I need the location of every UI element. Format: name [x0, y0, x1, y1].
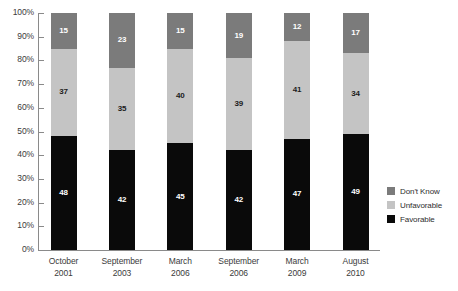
bar-segment: 17 [343, 13, 369, 53]
bar-group: 474112 [284, 13, 310, 250]
legend-item: Unfavorable [387, 199, 442, 211]
legend-swatch-icon [387, 201, 395, 209]
x-axis-tick-label: August2010 [313, 256, 399, 279]
bar-group: 454015 [167, 13, 193, 250]
bar-segment-value-label: 41 [293, 86, 302, 94]
bar-segment: 42 [226, 150, 252, 250]
legend-label: Don't Know [400, 187, 440, 196]
bar-segment: 37 [51, 49, 77, 137]
x-axis-line [38, 250, 380, 251]
bar-segment: 15 [51, 13, 77, 49]
y-axis-tick-label: 30% [0, 173, 34, 183]
bar-segment-value-label: 40 [176, 92, 185, 100]
legend-label: Favorable [400, 215, 435, 224]
legend-swatch-icon [387, 215, 395, 223]
bar-segment: 41 [284, 41, 310, 138]
plot-area: 483715423523454015423919474112493417 [38, 13, 380, 250]
bar-segment: 15 [167, 13, 193, 49]
bar-segment: 23 [109, 13, 135, 68]
bar-segment-value-label: 34 [351, 90, 360, 98]
bar-group: 423919 [226, 13, 252, 250]
y-axis-tick-label: 20% [0, 197, 34, 207]
bar-group: 423523 [109, 13, 135, 250]
bar-segment-value-label: 37 [59, 88, 68, 96]
bar-segment-value-label: 45 [176, 193, 185, 201]
chart-legend: Don't KnowUnfavorableFavorable [387, 185, 442, 227]
x-axis-label-month: August [313, 256, 399, 268]
legend-item: Favorable [387, 213, 442, 225]
bar-segment-value-label: 23 [118, 36, 127, 44]
y-axis-tick-label: 90% [0, 31, 34, 41]
bar-segment-value-label: 12 [293, 23, 302, 31]
bar-segment-value-label: 15 [59, 27, 68, 35]
bar-segment-value-label: 42 [234, 196, 243, 204]
legend-item: Don't Know [387, 185, 442, 197]
bar-segment-value-label: 49 [351, 188, 360, 196]
bar-segment-value-label: 39 [234, 100, 243, 108]
y-axis-tick-label: 10% [0, 220, 34, 230]
bar-segment-value-label: 19 [234, 32, 243, 40]
legend-swatch-icon [387, 187, 395, 195]
bar-segment-value-label: 42 [118, 196, 127, 204]
bar-segment-value-label: 15 [176, 27, 185, 35]
stacked-bar-chart: 100%90%80%70%60%50%40%30%20%10%0% 483715… [0, 0, 458, 291]
bar-segment: 39 [226, 58, 252, 150]
y-axis-tick-label: 80% [0, 54, 34, 64]
y-axis-tick-label: 40% [0, 149, 34, 159]
bar-segment: 45 [167, 143, 193, 250]
bar-segment: 35 [109, 68, 135, 151]
bar-segment: 48 [51, 136, 77, 250]
bar-segment-value-label: 17 [351, 29, 360, 37]
bar-segment-value-label: 48 [59, 189, 68, 197]
legend-label: Unfavorable [400, 201, 442, 210]
bar-segment: 34 [343, 53, 369, 134]
y-axis-tick-label: 100% [0, 7, 34, 17]
bar-segment-value-label: 47 [293, 190, 302, 198]
bar-segment-value-label: 35 [118, 105, 127, 113]
y-axis-tick-mark [38, 250, 44, 251]
bar-group: 483715 [51, 13, 77, 250]
bar-segment: 40 [167, 49, 193, 144]
bar-segment: 49 [343, 134, 369, 250]
y-axis-tick-label: 50% [0, 126, 34, 136]
y-axis-tick-label: 60% [0, 102, 34, 112]
bar-segment: 42 [109, 150, 135, 250]
x-axis-label-year: 2010 [313, 268, 399, 280]
bar-group: 493417 [343, 13, 369, 250]
y-axis-tick-label: 0% [0, 244, 34, 254]
bar-segment: 47 [284, 139, 310, 250]
bar-segment: 19 [226, 13, 252, 58]
y-axis-tick-label: 70% [0, 78, 34, 88]
bar-segment: 12 [284, 13, 310, 41]
